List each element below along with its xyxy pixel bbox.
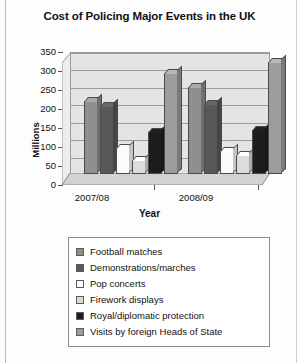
- y-tick-label: 300: [22, 66, 56, 76]
- bar-2008-09-series-5: [268, 62, 282, 174]
- legend-label: Demonstrations/marches: [90, 263, 196, 273]
- x-tick-mark-0: [154, 185, 155, 190]
- legend-swatch-icon: [76, 296, 84, 304]
- legend-label: Royal/diplomatic protection: [90, 311, 204, 321]
- bars-container: [62, 52, 270, 185]
- legend-swatch-icon: [76, 312, 84, 320]
- legend-label: Visits by foreign Heads of State: [90, 327, 222, 337]
- category-label-1: 2008/09: [166, 192, 226, 203]
- bar-2008-09-series-3: [236, 155, 250, 174]
- bar-2007-08-series-0: [84, 101, 98, 174]
- legend-item-2[interactable]: Pop concerts: [76, 276, 262, 292]
- legend-item-1[interactable]: Demonstrations/marches: [76, 260, 262, 276]
- bar-2007-08-series-2: [116, 148, 130, 174]
- y-tick-label: 100: [22, 142, 56, 152]
- bar-2007-08-series-5: [164, 73, 178, 174]
- y-tick-mark: [58, 185, 63, 186]
- y-tick-label: 200: [22, 104, 56, 114]
- bar-2008-09-series-4: [252, 130, 266, 174]
- y-tick-label: 0: [22, 180, 56, 190]
- bar-2008-09-series-0: [188, 87, 202, 174]
- legend-item-5[interactable]: Visits by foreign Heads of State: [76, 324, 262, 340]
- legend-item-3[interactable]: Firework displays: [76, 292, 262, 308]
- y-tick-label: 50: [22, 161, 56, 171]
- bar-side-face: [281, 55, 286, 173]
- y-tick-label: 350: [22, 47, 56, 57]
- bar-2007-08-series-1: [100, 106, 114, 174]
- legend-item-4[interactable]: Royal/diplomatic protection: [76, 308, 262, 324]
- bar-2008-09-series-2: [220, 151, 234, 174]
- bar-2008-09-series-1: [204, 104, 218, 174]
- plot-area: [62, 52, 270, 185]
- y-tick-label: 250: [22, 85, 56, 95]
- legend-item-0[interactable]: Football matches: [76, 244, 262, 260]
- bar-2007-08-series-4: [148, 132, 162, 174]
- legend-label: Football matches: [90, 247, 162, 257]
- bar-2007-08-series-3: [132, 160, 146, 174]
- legend-swatch-icon: [76, 248, 84, 256]
- y-tick-label: 150: [22, 123, 56, 133]
- x-axis-title: Year: [0, 208, 299, 219]
- legend-swatch-icon: [76, 328, 84, 336]
- legend-swatch-icon: [76, 280, 84, 288]
- legend-label: Firework displays: [90, 295, 163, 305]
- bar-side-face: [177, 66, 182, 173]
- legend-label: Pop concerts: [90, 279, 145, 289]
- chart-legend: Football matchesDemonstrations/marchesPo…: [68, 237, 270, 347]
- plot-wrap: Millions 350300250200150100500 2007/08 2…: [0, 40, 299, 205]
- category-label-0: 2007/08: [62, 192, 122, 203]
- legend-swatch-icon: [76, 264, 84, 272]
- x-tick-mark-1: [258, 185, 259, 190]
- y-axis-ticks: 350300250200150100500: [22, 40, 56, 185]
- chart-page: Cost of Policing Major Events in the UK …: [0, 0, 299, 363]
- chart-title: Cost of Policing Major Events in the UK: [0, 10, 299, 22]
